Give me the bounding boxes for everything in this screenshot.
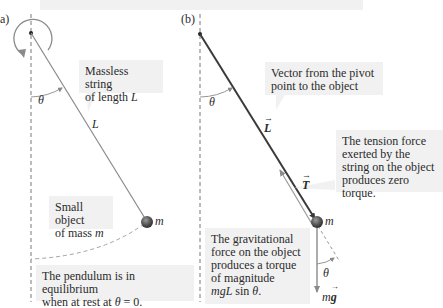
tension-callout-tail [294, 180, 335, 190]
string-callout-line2: of length L [85, 91, 157, 104]
vector-callout-line2: point to the object [271, 80, 377, 93]
tension-callout-line5: torque. [342, 187, 437, 200]
string-extension-dashed [318, 226, 340, 262]
string-L-label: L [92, 117, 99, 132]
angle-theta-label-a: θ [38, 93, 44, 108]
equilibrium-callout: The pendulum is in equilibrium when at r… [36, 265, 194, 301]
object-callout-line2: of mass m [55, 227, 107, 240]
angle-arc-b [200, 88, 232, 97]
mass-m-label-b: m [325, 214, 334, 229]
mass-m-label-a: m [155, 214, 164, 229]
string-callout: Massless string of length L [79, 60, 163, 93]
lower-angle-arc [317, 258, 334, 264]
gravity-callout: The gravitational force on the object pr… [205, 228, 310, 304]
tension-callout: The tension force exerted by the string … [336, 130, 443, 192]
vector-L-label: →L [264, 121, 271, 136]
object-callout: Small object of mass m [49, 196, 113, 229]
equilibrium-callout-line1: The pendulum is in equilibrium [42, 270, 188, 296]
top-callout-fragment-b [180, 0, 363, 10]
equilibrium-callout-line2: when at rest at θ = 0. [42, 296, 188, 308]
rotation-arrowhead-icon [18, 49, 26, 58]
tension-T-label: →T [302, 178, 309, 193]
vector-callout: Vector from the pivot point to the objec… [265, 62, 383, 95]
panel-a-label: a) [0, 12, 9, 27]
angle-arc-a [31, 88, 62, 97]
gravity-mg-label: m→g [322, 290, 337, 305]
mass-ball-b [311, 216, 323, 228]
gravity-callout-line5: mgL sin θ. [211, 285, 304, 298]
lower-angle-theta-label: θ [323, 266, 329, 281]
angle-theta-label-b: θ [209, 95, 215, 110]
panel-b-label: (b) [181, 12, 195, 27]
mass-ball-a [141, 216, 153, 228]
object-callout-line1: Small object [55, 201, 107, 227]
string-callout-line1: Massless string [85, 65, 157, 91]
top-callout-fragment [40, 0, 180, 10]
pendulum-diagram: a) Massless string of length L θ L Small… [0, 0, 443, 308]
